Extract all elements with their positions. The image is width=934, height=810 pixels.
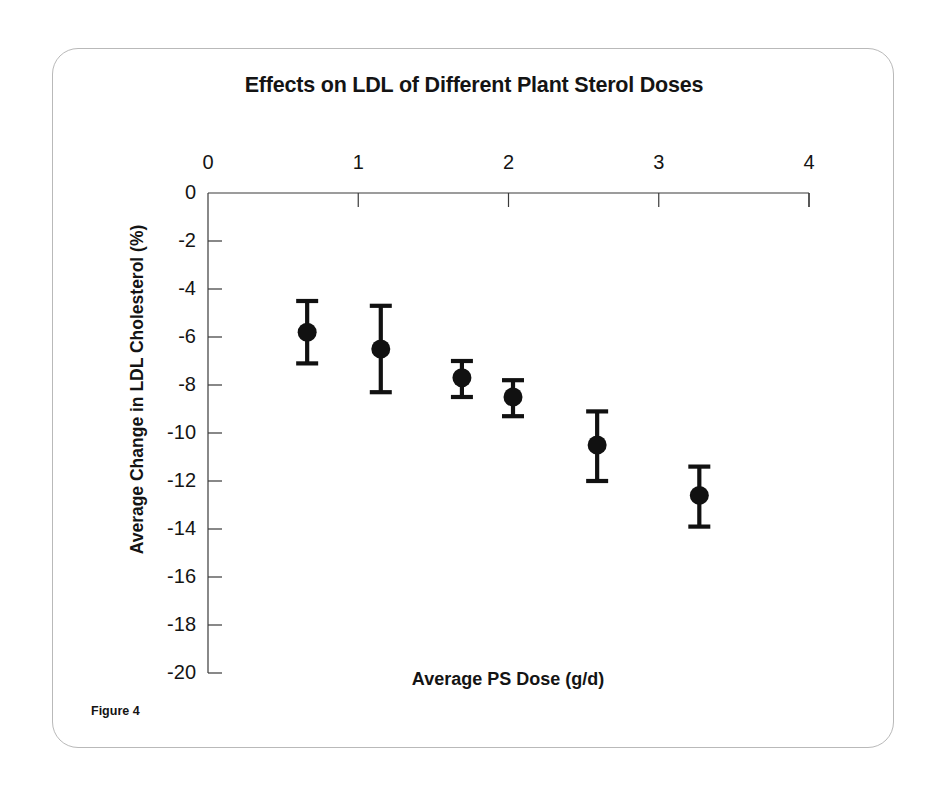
x-tick-label: 3 bbox=[639, 151, 679, 174]
y-axis-title: Average Change in LDL Cholesterol (%) bbox=[127, 180, 148, 600]
y-tick-label: -8 bbox=[140, 373, 196, 396]
y-tick-label: -12 bbox=[140, 469, 196, 492]
y-tick-label: -18 bbox=[140, 613, 196, 636]
y-tick-label: -20 bbox=[140, 661, 196, 684]
chart-canvas bbox=[53, 49, 895, 749]
data-point-marker bbox=[690, 486, 709, 505]
y-tick-label: -2 bbox=[140, 229, 196, 252]
data-point-marker bbox=[504, 388, 523, 407]
x-tick-label: 1 bbox=[338, 151, 378, 174]
chart-data-series bbox=[296, 301, 710, 527]
data-point-group bbox=[502, 380, 524, 416]
y-tick-label: -14 bbox=[140, 517, 196, 540]
data-point-marker bbox=[371, 340, 390, 359]
x-tick-label: 0 bbox=[188, 151, 228, 174]
y-tick-label: -4 bbox=[140, 277, 196, 300]
data-point-group bbox=[451, 361, 473, 397]
data-point-marker bbox=[298, 323, 317, 342]
data-point-group bbox=[296, 301, 318, 363]
x-tick-label: 2 bbox=[489, 151, 529, 174]
data-point-group bbox=[370, 306, 392, 392]
figure-caption: Figure 4 bbox=[91, 704, 140, 718]
data-point-marker bbox=[588, 436, 607, 455]
data-point-marker bbox=[452, 368, 471, 387]
data-point-group bbox=[688, 467, 710, 527]
chart-axes bbox=[208, 193, 809, 673]
chart-tick-marks bbox=[208, 193, 809, 673]
figure-card: Effects on LDL of Different Plant Sterol… bbox=[52, 48, 894, 748]
plot-area: 01234 0-2-4-6-8-10-12-14-16-18-20 Averag… bbox=[53, 49, 895, 749]
y-tick-label: -16 bbox=[140, 565, 196, 588]
data-point-group bbox=[586, 411, 608, 481]
y-tick-label: -10 bbox=[140, 421, 196, 444]
x-tick-label: 4 bbox=[789, 151, 829, 174]
y-tick-label: -6 bbox=[140, 325, 196, 348]
x-axis-title: Average PS Dose (g/d) bbox=[208, 669, 808, 690]
y-tick-label: 0 bbox=[140, 181, 196, 204]
